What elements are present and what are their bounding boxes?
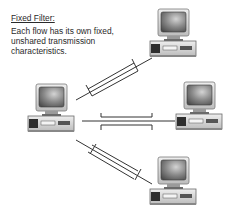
flow-middle: [82, 113, 175, 130]
flow-lower: [76, 140, 152, 184]
flow-upper: [76, 58, 152, 100]
right-computer-icon: [176, 82, 222, 130]
top-computer-icon: [150, 9, 196, 57]
left-computer-icon: [28, 84, 74, 132]
network-diagram: [0, 0, 232, 215]
bottom-computer-icon: [150, 157, 196, 205]
